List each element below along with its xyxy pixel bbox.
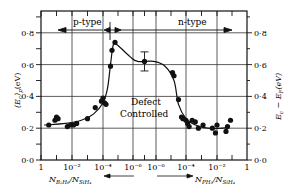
y-tick-labels-left: 0·00·20·40·60·8 xyxy=(21,29,34,165)
y-axis-title-right: Ec − EF(eV) xyxy=(274,73,284,121)
data-point xyxy=(187,124,192,129)
x-tick-labels: 110⁻²10⁻⁴10⁻⁶10⁻⁶10⁻⁴10⁻²1 xyxy=(38,163,249,172)
data-point xyxy=(200,122,205,127)
data-point xyxy=(108,64,113,69)
data-point xyxy=(103,102,108,107)
y-tick-label: 0·2 xyxy=(254,124,267,133)
x-tick-label: 10⁻⁶ xyxy=(124,163,142,172)
x-tick-label: 10⁻⁶ xyxy=(147,163,165,172)
data-point xyxy=(214,122,219,127)
data-point xyxy=(213,130,218,135)
n-type-label: n-type xyxy=(178,17,207,27)
p-type-label: p-type xyxy=(73,17,102,27)
y-tick-label: 0·6 xyxy=(21,61,34,70)
data-point xyxy=(176,97,181,102)
y-tick-label: 0·6 xyxy=(254,61,267,70)
controlled-label: Controlled xyxy=(120,109,169,119)
data-point xyxy=(112,40,117,45)
y-tick-labels-right: 0·00·20·40·60·8 xyxy=(254,29,267,165)
y-tick-label: 0·8 xyxy=(21,29,34,38)
x-tick-label: 1 xyxy=(244,163,249,172)
y-tick-label: 0·8 xyxy=(254,29,267,38)
data-point xyxy=(93,105,98,110)
data-point xyxy=(46,122,51,127)
x-axis-title-left: NB₂H₆/NSiH₄ xyxy=(48,175,91,185)
data-point xyxy=(109,48,114,53)
x-tick-label: 10⁻² xyxy=(208,163,226,172)
data-points xyxy=(46,40,233,136)
defect-energy-chart: 0·00·20·40·60·8 0·00·20·40·60·8 110⁻²10⁻… xyxy=(0,0,285,190)
x-tick-label: 1 xyxy=(38,163,43,172)
data-point xyxy=(223,129,228,134)
y-tick-label: 0·0 xyxy=(254,156,267,165)
x-axis-title-right: NPH₃/NSiH₄ xyxy=(194,175,235,185)
y-tick-label: 0·0 xyxy=(21,156,34,165)
axis-ticks xyxy=(36,11,252,160)
y-axis-title-left: (Ec)p(eV) xyxy=(13,73,24,108)
x-tick-label: 10⁻⁴ xyxy=(177,163,195,172)
x-tick-label: 10⁻⁴ xyxy=(94,163,112,172)
y-tick-label: 0·4 xyxy=(21,92,34,101)
data-point xyxy=(142,59,147,64)
data-point xyxy=(55,116,60,121)
data-point xyxy=(196,126,201,131)
data-point xyxy=(210,126,215,131)
data-point xyxy=(100,95,105,100)
y-tick-label: 0·2 xyxy=(21,124,34,133)
grid-lines xyxy=(41,11,247,160)
data-point xyxy=(171,73,176,78)
data-point xyxy=(85,116,90,121)
data-point xyxy=(228,118,233,123)
y-tick-label: 0·4 xyxy=(254,92,267,101)
defect-label: Defect xyxy=(131,97,161,107)
x-tick-label: 10⁻² xyxy=(63,163,81,172)
data-point xyxy=(74,121,79,126)
data-point xyxy=(225,124,230,129)
x-arrow-left xyxy=(104,174,134,178)
data-point xyxy=(193,119,198,124)
x-arrow-right xyxy=(157,174,193,178)
